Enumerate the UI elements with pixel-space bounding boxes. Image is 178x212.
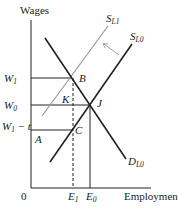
origin-label: 0 — [21, 190, 27, 202]
x-axis-label: Employment — [124, 190, 178, 202]
dl0-label: DL0 — [127, 155, 144, 169]
point-c-label: C — [75, 124, 83, 136]
y-axis-label: Wages — [20, 4, 49, 16]
w1-label: W1 — [4, 72, 17, 86]
w0-label: W0 — [4, 99, 17, 113]
sl1-label: SL1 — [106, 12, 119, 26]
point-j-label: J — [97, 97, 103, 109]
e0-label: E0 — [85, 190, 97, 204]
point-a-label: A — [34, 133, 42, 145]
e1-label: E1 — [67, 190, 78, 204]
sl0-label: SL0 — [130, 30, 144, 44]
w1-minus-t-label: W1 − t — [2, 120, 32, 134]
point-k-label: K — [61, 93, 70, 105]
shift-arrow-icon — [103, 44, 119, 56]
point-b-label: B — [79, 72, 86, 84]
labor-market-diagram: Wages Employment 0 W1 W0 W1 − t E1 E0 B … — [0, 0, 178, 212]
